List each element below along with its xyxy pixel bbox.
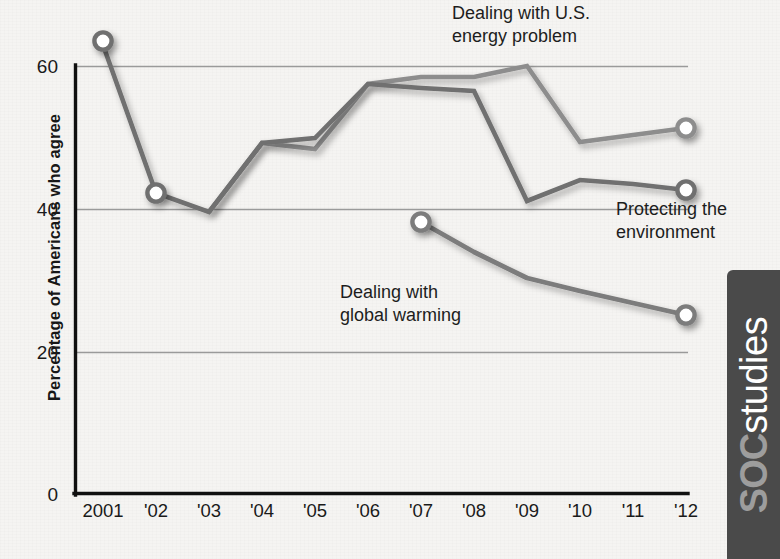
line-chart: Percentage of Americans who agree 60 40 …: [0, 0, 780, 559]
series-label-energy: Dealing with U.S. energy problem: [452, 2, 672, 48]
x-tick-2009: '09: [497, 500, 557, 522]
marker-environment-2012: [677, 181, 694, 198]
series-label-environment: Protecting the environment: [616, 198, 776, 244]
data-point-markers: [94, 32, 694, 323]
x-tick-2008: '08: [444, 500, 504, 522]
x-tick-2007: '07: [391, 500, 451, 522]
x-tick-2012: '12: [656, 500, 716, 522]
series-label-global-warming-line1: Dealing with: [340, 281, 530, 304]
series-environment: [103, 45, 686, 212]
marker-global-warming-2012: [677, 306, 694, 323]
x-tick-2005: '05: [285, 500, 345, 522]
soc-studies-wordmark: SOCstudies: [735, 316, 773, 512]
soc-studies-tab[interactable]: SOCstudies: [727, 270, 780, 559]
series-label-environment-line2: environment: [616, 221, 776, 244]
soc-wordmark-studies: studies: [733, 316, 775, 433]
x-tick-2002: '02: [126, 500, 186, 522]
marker-environment-2002: [147, 184, 164, 201]
x-tick-2011: '11: [603, 500, 663, 522]
y-tick-20: 20: [6, 342, 58, 364]
y-tick-40: 40: [6, 199, 58, 221]
series-label-energy-line2: energy problem: [452, 25, 672, 48]
series-label-energy-line1: Dealing with U.S.: [452, 2, 672, 25]
y-tick-60: 60: [6, 56, 58, 78]
series-label-global-warming-line2: global warming: [340, 304, 530, 327]
marker-environment-2001: [94, 32, 111, 49]
x-tick-2006: '06: [338, 500, 398, 522]
marker-global-warming-2007: [412, 213, 429, 230]
series-label-environment-line1: Protecting the: [616, 198, 776, 221]
chart-canvas: [0, 0, 780, 559]
axes: [74, 65, 688, 495]
y-tick-0: 0: [6, 484, 58, 506]
series-environment-line: [103, 45, 686, 212]
x-tick-2004: '04: [232, 500, 292, 522]
x-tick-2003: '03: [179, 500, 239, 522]
series-label-global-warming: Dealing with global warming: [340, 281, 530, 327]
x-tick-2010: '10: [550, 500, 610, 522]
marker-energy-2012: [677, 119, 694, 136]
soc-wordmark-soc: SOC: [733, 433, 775, 512]
